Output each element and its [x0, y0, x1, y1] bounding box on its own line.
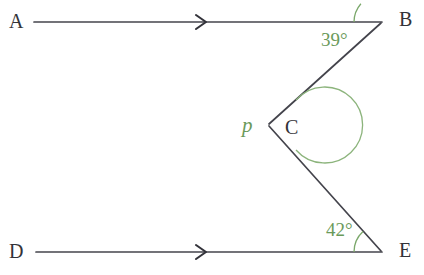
- angle-arc-e: [354, 231, 363, 252]
- geometry-canvas: [0, 0, 424, 275]
- angle-label-b: 39°: [321, 30, 348, 49]
- segment-ce: [269, 126, 381, 251]
- point-label-b: B: [399, 9, 412, 29]
- geometry-diagram: A B C D E 39° 42° p: [0, 0, 424, 275]
- angle-arc-c-reflex: [296, 87, 363, 163]
- point-label-a: A: [9, 11, 23, 31]
- point-label-d: D: [9, 241, 23, 261]
- angle-label-e: 42°: [326, 220, 353, 239]
- point-label-c: C: [285, 117, 298, 137]
- angle-label-c: p: [242, 115, 253, 136]
- point-label-e: E: [399, 240, 411, 260]
- angle-arc-b: [354, 4, 361, 22]
